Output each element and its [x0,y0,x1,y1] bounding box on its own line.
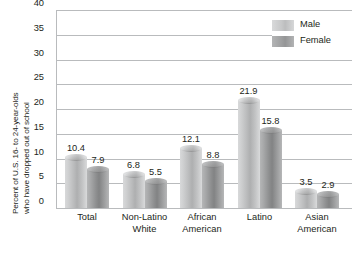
legend-label-male: Male [300,20,320,29]
bar-male[interactable] [295,191,317,208]
bar-male[interactable] [238,100,260,208]
bar-body [145,181,167,208]
bar-body [202,164,224,208]
y-axis-tick-labels: 0510152025303540 [0,0,52,208]
legend-item-male[interactable]: Male [272,18,352,32]
y-tick-30: 30 [0,49,44,58]
bar-body [260,130,282,208]
bar-female[interactable] [87,169,109,208]
bar-group [65,10,109,208]
bar-body [180,148,202,208]
legend-item-female[interactable]: Female [272,34,352,48]
bar-body [87,169,109,208]
bar-cap-shadow [260,127,282,134]
gridline-0 [57,208,352,209]
legend-swatch-female [272,36,294,47]
y-tick-15: 15 [0,123,44,132]
bar-cap-shadow [145,178,167,185]
bar-male[interactable] [123,174,145,208]
x-axis-category-labels: TotalNon-LatinoWhiteAfricanAmericanLatin… [57,212,352,252]
bar-female[interactable] [145,181,167,208]
x-category-line-2: American [159,224,245,236]
y-tick-20: 20 [0,98,44,107]
bar-male[interactable] [65,157,87,208]
legend-label-female: Female [300,36,331,45]
bar-cap-shadow [238,97,260,104]
bar-body [123,174,145,208]
bar-female[interactable] [202,164,224,208]
bar-female[interactable] [260,130,282,208]
bar-body [65,157,87,208]
bar-group [180,10,224,208]
x-category-line-2: American [274,224,358,236]
y-tick-5: 5 [0,172,44,181]
bar-cap-shadow [87,166,109,173]
x-category-label: AsianAmerican [274,212,358,235]
bar-male[interactable] [180,148,202,208]
legend: Male Female [272,16,352,52]
bar-cap-shadow [65,154,87,161]
bar-chart: Percent of U.S. 16- to 24-year-olds who … [0,0,358,253]
legend-swatch-male [272,20,294,31]
bar-female[interactable] [317,194,339,208]
x-category-line-1: Asian [274,212,358,224]
bar-group [123,10,167,208]
y-tick-40: 40 [0,0,44,8]
bar-cap-shadow [295,188,317,195]
bar-body [238,100,260,208]
y-tick-0: 0 [0,197,44,206]
bar-cap-shadow [317,191,339,198]
y-tick-25: 25 [0,73,44,82]
y-tick-35: 35 [0,24,44,33]
y-tick-10: 10 [0,148,44,157]
